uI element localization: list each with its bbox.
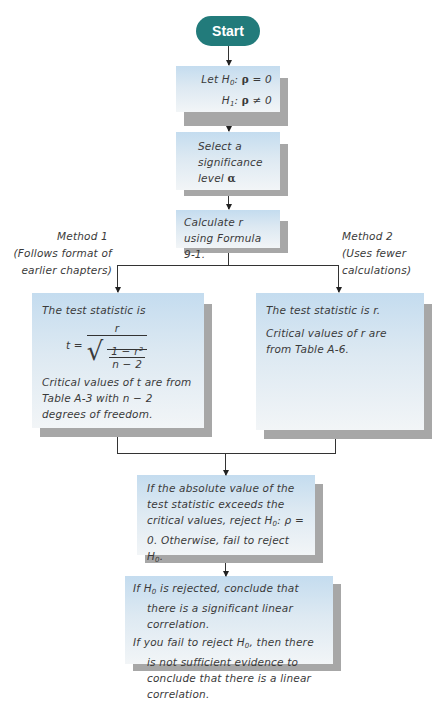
arrow-icon	[223, 470, 229, 476]
conclusion-rejected: If H0 is rejected, conclude that there i…	[133, 580, 325, 632]
t-statistic-formula: t = r √ 1 − r² n − 2	[66, 321, 194, 370]
arrow-icon	[226, 126, 232, 132]
conclusion-fail-to-reject: If you fail to reject H0, then there is …	[133, 634, 325, 702]
calculate-box: Calculate r using Formula 9-1.	[176, 210, 280, 248]
connector-split-horizontal	[117, 265, 339, 266]
start-terminal: Start	[196, 16, 260, 46]
decision-box: If the absolute value of the test statis…	[137, 475, 315, 555]
method1-label: Method 1 (Follows format of earlier chap…	[0, 228, 112, 279]
conclusion-box: If H0 is rejected, conclude that there i…	[125, 576, 333, 664]
null-hypothesis: Let H0: ρ = 0	[184, 71, 272, 92]
method1-box: The test statistic is t = r √ 1 − r² n −…	[32, 293, 204, 428]
arrow-icon	[226, 204, 232, 210]
arrow-icon	[223, 571, 229, 577]
sqrt-symbol: √	[87, 336, 104, 366]
connector-calc-split	[228, 252, 229, 266]
arrow-icon	[336, 287, 342, 293]
significance-box: Select a significance level α	[176, 132, 280, 190]
hypotheses-box: Let H0: ρ = 0 H1: ρ ≠ 0	[176, 66, 280, 112]
method2-box: The test statistic is r. Critical values…	[256, 293, 424, 430]
connector-merge-horizontal	[117, 453, 336, 454]
alpha-symbol: α	[228, 172, 236, 184]
method2-label: Method 2 (Uses fewer calculations)	[342, 228, 442, 279]
arrow-icon	[226, 60, 232, 66]
arrow-icon	[115, 287, 121, 293]
alternative-hypothesis: H1: ρ ≠ 0	[184, 92, 272, 113]
